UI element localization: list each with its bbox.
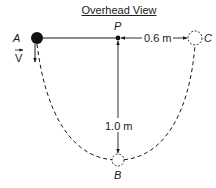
ball-a (31, 32, 43, 44)
ball-c (188, 31, 202, 45)
dimension-label-pc: 0.6 m (143, 33, 173, 44)
pivot-p (116, 36, 121, 41)
ball-b (112, 154, 124, 166)
trajectory-path (37, 44, 195, 160)
diagram-canvas (0, 0, 216, 188)
label-a: A (13, 33, 20, 44)
label-b: B (114, 170, 121, 181)
dimension-label-pb: 1.0 m (104, 121, 134, 132)
label-velocity: V (15, 53, 22, 64)
label-p: P (114, 21, 121, 32)
label-c: C (204, 33, 212, 44)
